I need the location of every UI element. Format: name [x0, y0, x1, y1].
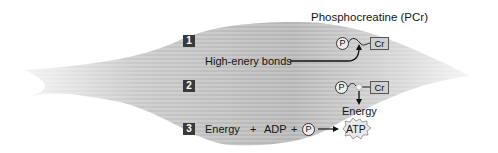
step-3-graphics: [0, 0, 498, 153]
atp-label: ATP: [346, 123, 366, 136]
pcr-diagram: Phosphocreatine (PCr) 1 High-enery bonds…: [0, 0, 498, 153]
